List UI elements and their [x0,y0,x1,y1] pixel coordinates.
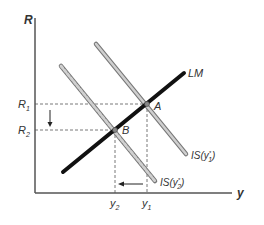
left-arrow-icon [118,182,143,187]
r2-tick-label: R2 [18,124,30,138]
axes: R y [24,13,245,200]
point-b-label: B [122,124,129,136]
svg-text:y1: y1 [141,197,152,211]
down-arrow-icon [48,110,53,127]
svg-text:y2: y2 [109,197,120,211]
is-lm-diagram: R y A B LM IS(y*1) IS(y*2) R1 [0,0,264,225]
is2-label: IS(y*2) [160,177,184,190]
svg-text:R2: R2 [18,124,30,138]
y2-tick-label: y2 [109,197,120,211]
x-axis-label: y [236,186,245,200]
svg-text:R1: R1 [18,98,30,112]
lm-label: LM [188,67,204,79]
r1-tick-label: R1 [18,98,30,112]
svg-text:IS(y*2): IS(y*2) [160,177,184,190]
svg-text:IS(y*1): IS(y*1) [191,150,215,163]
is1-curve [96,44,186,154]
point-a-label: A [153,100,161,112]
point-b-marker [113,128,118,133]
point-a-marker [145,102,150,107]
y-axis-label: R [24,13,33,27]
y1-tick-label: y1 [141,197,152,211]
is1-label: IS(y*1) [191,150,215,163]
